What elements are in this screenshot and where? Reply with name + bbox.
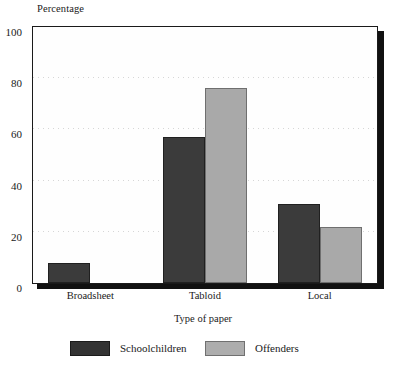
x-axis-category-label: Broadsheet <box>67 290 114 302</box>
plot-area <box>32 26 378 284</box>
bar <box>205 88 247 283</box>
bar <box>320 227 362 283</box>
bar <box>48 263 90 283</box>
legend-swatch <box>205 341 245 356</box>
chart-page: { "chart_data": { "type": "bar", "title"… <box>0 0 406 369</box>
chart-legend: SchoolchildrenOffenders <box>0 340 406 362</box>
x-axis-title: Type of paper <box>0 313 406 324</box>
y-axis-tick-value: 80 <box>11 78 22 89</box>
y-axis-tick-value: 60 <box>11 129 22 140</box>
x-axis-category-label: Tabloid <box>189 290 221 302</box>
y-axis-tick-value: 20 <box>11 232 22 243</box>
y-axis-tick-value: 100 <box>6 27 23 38</box>
legend-label: Schoolchildren <box>120 341 187 356</box>
bar <box>163 137 205 283</box>
legend-swatch <box>70 341 110 356</box>
bar <box>278 204 320 283</box>
y-axis-tick-value: 0 <box>17 283 23 294</box>
plot-frame-shadow-right <box>378 31 384 289</box>
legend-label: Offenders <box>255 341 299 356</box>
y-axis-tick-value: 40 <box>11 181 22 192</box>
gridline <box>33 77 377 78</box>
y-axis-title: Percentage <box>37 3 84 14</box>
x-axis-category-label: Local <box>308 290 332 302</box>
